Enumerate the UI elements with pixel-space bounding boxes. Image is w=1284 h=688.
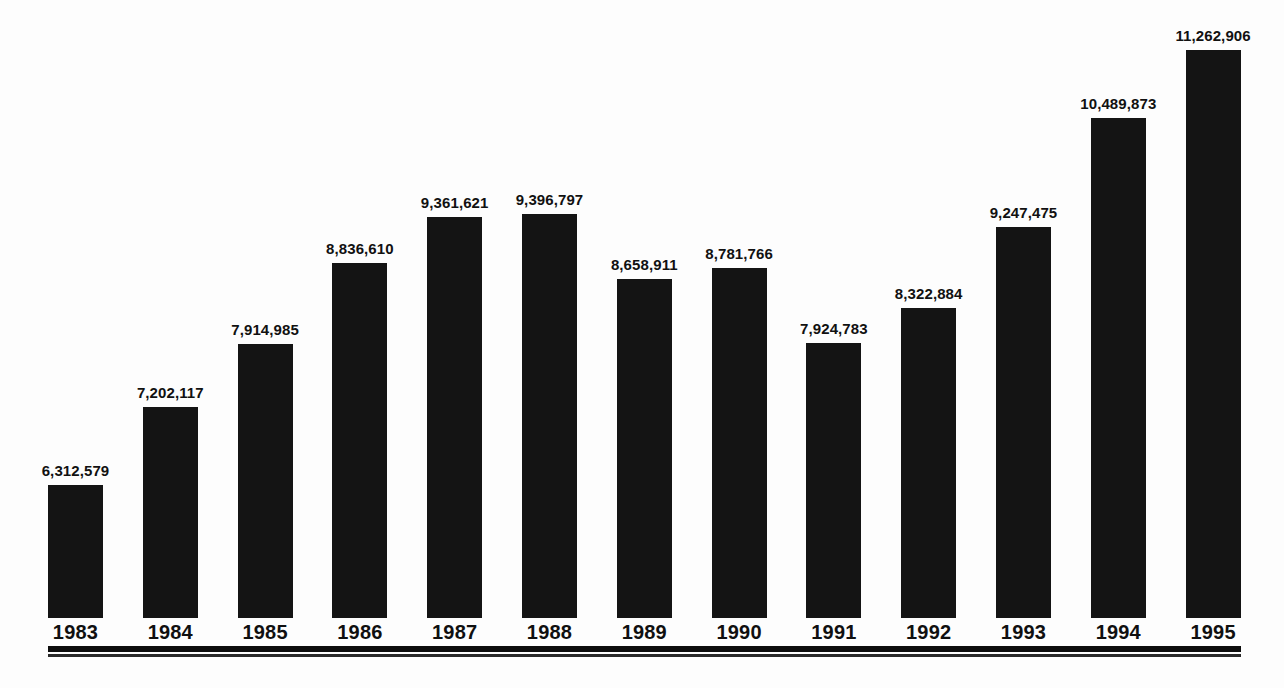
x-axis-tick-label: 1990 xyxy=(716,621,761,644)
bar-group: 9,396,7971988 xyxy=(522,214,577,618)
bar-group: 8,322,8841992 xyxy=(901,308,956,618)
bar-value-label: 9,361,621 xyxy=(421,194,489,211)
bar[interactable] xyxy=(712,268,767,618)
bar-value-label: 6,312,579 xyxy=(42,462,110,479)
bar-group: 7,914,9851985 xyxy=(238,344,293,618)
x-axis-baseline xyxy=(48,646,1241,652)
bar-group: 10,489,8731994 xyxy=(1091,118,1146,618)
bar-group: 11,262,9061995 xyxy=(1186,50,1241,618)
x-axis-tick-label: 1993 xyxy=(1001,621,1046,644)
bar-group: 8,658,9111989 xyxy=(617,279,672,618)
bar[interactable] xyxy=(238,344,293,618)
x-axis-tick-label: 1983 xyxy=(53,621,98,644)
bar-value-label: 10,489,873 xyxy=(1080,95,1156,112)
bar-value-label: 8,658,911 xyxy=(611,256,678,273)
bar-group: 9,361,6211987 xyxy=(427,217,482,618)
bar-group: 8,781,7661990 xyxy=(712,268,767,618)
bar[interactable] xyxy=(996,227,1051,618)
bar-chart: 6,312,57919837,202,11719847,914,98519858… xyxy=(0,0,1284,688)
x-axis-tick-label: 1995 xyxy=(1190,621,1235,644)
x-axis-tick-label: 1989 xyxy=(622,621,667,644)
bar[interactable] xyxy=(522,214,577,618)
x-axis-tick-label: 1988 xyxy=(527,621,572,644)
bar-value-label: 7,914,985 xyxy=(231,321,299,338)
x-axis-tick-label: 1992 xyxy=(906,621,951,644)
bar[interactable] xyxy=(1091,118,1146,618)
bar-value-label: 8,781,766 xyxy=(705,245,773,262)
bar-group: 7,924,7831991 xyxy=(806,343,861,618)
bar[interactable] xyxy=(901,308,956,618)
bar-value-label: 9,247,475 xyxy=(990,204,1058,221)
bar-value-label: 7,924,783 xyxy=(800,320,868,337)
bar-value-label: 9,396,797 xyxy=(516,191,584,208)
plot-area: 6,312,57919837,202,11719847,914,98519858… xyxy=(0,0,1284,688)
bar[interactable] xyxy=(143,407,198,618)
x-axis-tick-label: 1994 xyxy=(1096,621,1141,644)
bar-value-label: 11,262,906 xyxy=(1175,27,1250,44)
bar-value-label: 7,202,117 xyxy=(137,384,204,401)
bar-group: 8,836,6101986 xyxy=(332,263,387,618)
x-axis-tick-label: 1984 xyxy=(148,621,193,644)
x-axis-tick-label: 1991 xyxy=(811,621,856,644)
bar[interactable] xyxy=(617,279,672,618)
x-axis-tick-label: 1986 xyxy=(337,621,382,644)
bar-group: 6,312,5791983 xyxy=(48,485,103,618)
bar[interactable] xyxy=(48,485,103,618)
x-axis-tick-label: 1987 xyxy=(432,621,477,644)
bar[interactable] xyxy=(1186,50,1241,618)
bar[interactable] xyxy=(806,343,861,618)
bar-value-label: 8,322,884 xyxy=(895,285,963,302)
bar-group: 7,202,1171984 xyxy=(143,407,198,618)
bar-group: 9,247,4751993 xyxy=(996,227,1051,618)
x-axis-tick-label: 1985 xyxy=(242,621,287,644)
bar[interactable] xyxy=(427,217,482,618)
bar-value-label: 8,836,610 xyxy=(326,240,394,257)
bar[interactable] xyxy=(332,263,387,618)
x-axis-underline xyxy=(48,654,1241,657)
